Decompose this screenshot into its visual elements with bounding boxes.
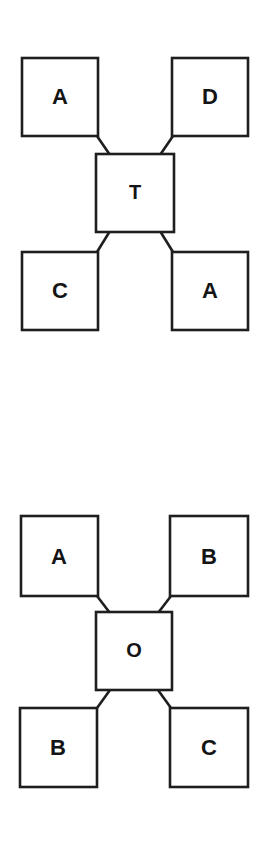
node-label-bottom-left: C bbox=[52, 278, 68, 303]
node-label-bottom-right: C bbox=[201, 735, 217, 760]
connector-bottom-left bbox=[97, 231, 110, 252]
node-label-top-left: A bbox=[51, 544, 67, 569]
connector-top-right bbox=[160, 136, 173, 155]
diagram-bottom-svg: A B B C O bbox=[0, 458, 270, 842]
node-label-center: T bbox=[129, 181, 141, 203]
connector-top-left bbox=[97, 136, 110, 155]
node-label-top-left: A bbox=[52, 84, 68, 109]
connector-top-left bbox=[97, 596, 110, 613]
node-label-bottom-left: B bbox=[50, 735, 66, 760]
diagram-bottom: A B B C O bbox=[0, 458, 270, 842]
connector-bottom-left bbox=[97, 690, 110, 708]
node-label-bottom-right: A bbox=[202, 278, 218, 303]
diagram-top: A D C A T bbox=[0, 0, 270, 420]
connector-top-right bbox=[158, 596, 171, 613]
diagram-canvas: A D C A T A B bbox=[0, 0, 270, 842]
connector-bottom-right bbox=[158, 690, 171, 708]
connector-bottom-right bbox=[160, 231, 173, 252]
diagram-top-svg: A D C A T bbox=[0, 0, 270, 420]
node-label-top-right: B bbox=[201, 544, 217, 569]
node-label-top-right: D bbox=[202, 84, 218, 109]
node-label-center: O bbox=[126, 639, 142, 661]
